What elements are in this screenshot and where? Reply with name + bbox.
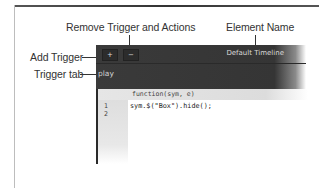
trigger-panel: + − Default Timeline play [96,45,306,89]
add-trigger-button[interactable]: + [102,49,118,61]
callout-element-name: Element Name [226,21,294,33]
line-number: 2 [104,110,108,118]
callout-remove-trigger: Remove Trigger and Actions [66,21,195,33]
code-function-header: function(sym, e) [96,89,308,100]
callout-trigger-tab: Trigger tab [34,68,83,80]
remove-trigger-button[interactable]: − [123,49,139,61]
code-line[interactable]: sym.$("Box").hide(); [130,102,212,110]
panel-toolbar: + − Default Timeline [96,45,306,64]
code-editor[interactable]: function(sym, e) 1 2 sym.$("Box").hide()… [96,89,306,169]
line-number: 1 [104,102,108,110]
frame-left-rule [14,5,15,188]
element-name-label: Default Timeline [226,49,284,57]
line-number-gutter: 1 2 [96,100,128,164]
function-signature: function(sym, e) [132,90,195,98]
callout-add-trigger: Add Trigger [30,51,83,63]
frame-top-rule [14,5,319,7]
trigger-tab-play[interactable]: play [98,69,114,78]
